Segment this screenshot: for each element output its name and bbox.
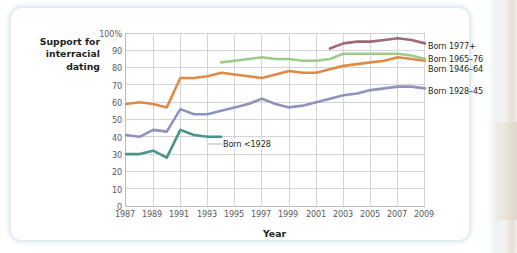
series-line-born-1928-45: [126, 87, 425, 137]
x-axis-title: Year: [125, 228, 424, 239]
y-tick-80: 80: [88, 63, 122, 73]
legend-label-born-1965-76: Born 1965–76: [428, 54, 483, 64]
page-background: Support for interracial dating 100% 90 8…: [0, 0, 517, 253]
y-tick-20: 20: [88, 167, 122, 177]
x-tick-2009: 2009: [407, 209, 441, 219]
legend-label-born-1928-45: Born 1928–45: [428, 86, 483, 96]
y-tick-10: 10: [88, 185, 122, 195]
y-tick-30: 30: [88, 150, 122, 160]
series-label-born-pre-1928: Born <1928: [222, 139, 272, 149]
y-tick-50: 50: [88, 115, 122, 125]
page-edge-tab-artifact: [492, 122, 517, 220]
series-line-born-1946-64: [126, 57, 425, 107]
legend-label-born-1946-64: Born 1946–64: [428, 64, 483, 74]
horizontal-gridlines: [126, 34, 425, 189]
series-line-born-1977: [330, 38, 425, 48]
series-line-born-1928: [126, 130, 221, 158]
y-tick-40: 40: [88, 133, 122, 143]
y-tick-60: 60: [88, 98, 122, 108]
y-tick-70: 70: [88, 81, 122, 91]
line-chart: Support for interracial dating 100% 90 8…: [0, 0, 517, 253]
y-tick-100: 100%: [84, 29, 122, 39]
series-group: [126, 38, 425, 157]
plot-area: [125, 33, 425, 207]
legend-label-born-1977-plus: Born 1977+: [428, 41, 476, 51]
plot-svg: [126, 33, 425, 206]
y-tick-90: 90: [88, 46, 122, 56]
